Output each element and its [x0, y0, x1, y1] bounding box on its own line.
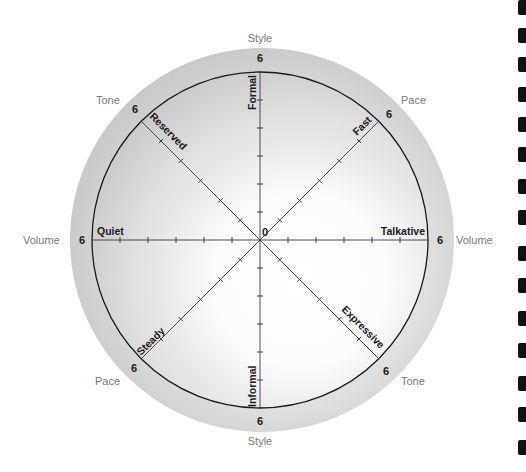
edge-mark [518, 28, 526, 43]
edge-mark [518, 147, 526, 162]
edge-mark [518, 278, 526, 293]
max-label-upper-right: 6 [386, 108, 392, 120]
personality-wheel-diagram: 0 Style Style Volume Volume Pace Pace To… [0, 0, 526, 472]
page-edge-marks [516, 0, 526, 472]
max-label-top: 6 [257, 52, 263, 64]
edge-mark [518, 376, 526, 391]
category-style-bottom: Style [248, 435, 272, 447]
category-volume-left: Volume [23, 234, 60, 246]
category-pace-lower-left: Pace [95, 375, 120, 387]
pole-informal: Informal [246, 365, 258, 407]
edge-mark [518, 179, 526, 194]
edge-mark [518, 0, 526, 15]
max-label-bottom: 6 [257, 415, 263, 427]
center-zero-label: 0 [262, 226, 268, 238]
pole-talkative: Talkative [381, 225, 425, 237]
axes [92, 72, 428, 408]
max-label-upper-left: 6 [132, 103, 138, 115]
edge-mark [518, 57, 526, 72]
edge-mark [518, 440, 526, 455]
max-label-lower-right: 6 [383, 365, 389, 377]
edge-mark [518, 311, 526, 326]
category-pace-upper-right: Pace [401, 94, 426, 106]
max-label-lower-left: 6 [131, 362, 137, 374]
edge-mark [518, 407, 526, 422]
edge-mark [518, 343, 526, 358]
pole-formal: Formal [246, 75, 258, 110]
category-style-top: Style [248, 32, 272, 44]
max-label-right: 6 [437, 234, 443, 246]
category-tone-upper-left: Tone [96, 94, 120, 106]
edge-mark [518, 117, 526, 132]
edge-mark [518, 87, 526, 102]
edge-mark [518, 246, 526, 261]
category-volume-right: Volume [456, 234, 493, 246]
category-tone-lower-right: Tone [401, 375, 425, 387]
edge-mark [518, 210, 526, 225]
max-label-left: 6 [79, 234, 85, 246]
pole-quiet: Quiet [97, 225, 124, 237]
